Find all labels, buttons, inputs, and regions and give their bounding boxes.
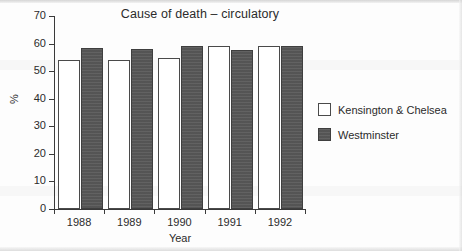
x-tick: [305, 210, 306, 214]
y-tick-label: 60: [34, 37, 46, 49]
bar-westminster-1992[interactable]: [281, 46, 303, 209]
bar-group: [58, 16, 103, 209]
y-tick-label: 30: [34, 119, 46, 131]
bar-group: [158, 16, 203, 209]
bar-kensington-chelsea-1988[interactable]: [58, 60, 80, 209]
x-axis-label: Year: [54, 232, 306, 244]
scan-edge-bottom: [0, 247, 462, 251]
bar-group: [108, 16, 153, 209]
bar-westminster-1989[interactable]: [131, 49, 153, 209]
x-tick-label-1991: 1991: [206, 216, 254, 228]
x-axis-line: [54, 209, 306, 210]
x-tick: [205, 210, 206, 214]
y-tick: 40: [49, 99, 54, 100]
bar-kensington-chelsea-1990[interactable]: [158, 58, 180, 209]
x-tick: [154, 210, 155, 214]
bar-group: [258, 16, 303, 209]
x-tick: [255, 210, 256, 214]
bar-group: [208, 16, 253, 209]
legend-swatch-icon: [318, 103, 331, 116]
y-axis-label: %: [8, 94, 20, 104]
x-tick-label-1992: 1992: [256, 216, 304, 228]
legend-label: Westminster: [338, 129, 399, 141]
legend-item-kensington-chelsea[interactable]: Kensington & Chelsea: [318, 100, 447, 119]
y-tick: 60: [49, 44, 54, 45]
bar-kensington-chelsea-1992[interactable]: [258, 46, 280, 209]
y-tick-label: 50: [34, 64, 46, 76]
legend-item-westminster[interactable]: Westminster: [318, 125, 447, 144]
x-tick-label-1990: 1990: [156, 216, 204, 228]
bar-westminster-1988[interactable]: [81, 48, 103, 209]
chart-figure: Cause of death – circulatory % 010203040…: [0, 0, 462, 251]
x-tick-label-1989: 1989: [105, 216, 153, 228]
y-tick-label: 70: [34, 9, 46, 21]
legend-swatch-icon: [318, 128, 331, 141]
bar-kensington-chelsea-1989[interactable]: [108, 60, 130, 209]
plot-area: 010203040506070 19881989199019911992: [54, 16, 306, 210]
x-tick: [104, 210, 105, 214]
bar-series-container: [55, 16, 306, 209]
y-tick-label: 10: [34, 174, 46, 186]
y-tick-label: 20: [34, 147, 46, 159]
bar-kensington-chelsea-1991[interactable]: [208, 46, 230, 209]
chart-legend: Kensington & ChelseaWestminster: [318, 100, 447, 150]
legend-label: Kensington & Chelsea: [338, 104, 447, 116]
x-tick-label-1988: 1988: [55, 216, 103, 228]
y-tick: 50: [49, 71, 54, 72]
y-tick: 30: [49, 126, 54, 127]
y-tick: 20: [49, 154, 54, 155]
y-tick: 70: [49, 16, 54, 17]
y-tick-label: 40: [34, 92, 46, 104]
bar-westminster-1991[interactable]: [231, 50, 253, 209]
bar-westminster-1990[interactable]: [181, 46, 203, 209]
x-tick: [54, 210, 55, 214]
y-tick: 10: [49, 181, 54, 182]
scan-edge-top: [0, 0, 462, 3]
y-tick-label: 0: [40, 202, 46, 214]
